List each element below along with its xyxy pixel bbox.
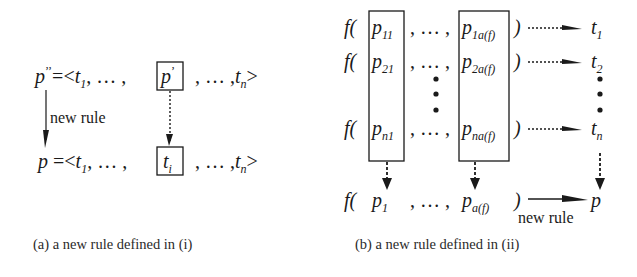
down-arrows (382, 153, 605, 190)
row2-first-param: p21 (372, 51, 394, 71)
result-close: ) (514, 190, 521, 210)
p-symbol: p (462, 117, 472, 139)
p-symbol: p (35, 65, 45, 87)
panel-a-bottom-expression: p =<t1, … , (38, 151, 127, 171)
p-symbol: p (462, 50, 472, 72)
rown-last-param: pna(f) (462, 118, 495, 138)
new-rule-label-a: new rule (50, 110, 106, 126)
ellipsis: , … , (87, 150, 127, 172)
result-last-param: pa(f) (462, 190, 489, 210)
panel-a-top-expression: p’’=<t1, … , (35, 66, 126, 86)
panel-a-bottom-tail: , … ,tn> (195, 151, 258, 171)
func-f-rown: f( (344, 118, 356, 138)
boxed-p-prime-text: p’ (161, 66, 175, 86)
prime: ’ (171, 64, 175, 78)
row2-ellipsis: , … , (410, 51, 450, 71)
t-symbol: t (591, 16, 597, 38)
row-arrows (528, 25, 582, 131)
row1-last-param: p1a(f) (462, 17, 495, 37)
new-rule-arrow-b (528, 195, 588, 202)
i-subscript: i (169, 162, 172, 176)
subscript: 21 (382, 62, 394, 76)
equals-open: =< (52, 65, 75, 87)
p-symbol: p (462, 189, 472, 211)
result-ellipsis: , … , (410, 190, 450, 210)
t-symbol: t (235, 65, 241, 87)
ellipsis: , … , (195, 65, 235, 87)
equals-open: =< (53, 150, 76, 172)
subscript: na(f) (472, 129, 495, 143)
ellipsis: , … , (86, 65, 126, 87)
row1-close: ) (514, 17, 521, 37)
p-symbol: p (372, 189, 382, 211)
subscript: 1a(f) (472, 28, 495, 42)
panel-a-top-tail: , … ,tn> (195, 66, 258, 86)
func-f-row1: f( (344, 17, 356, 37)
p-symbol: p (372, 50, 382, 72)
t-symbol: t (591, 117, 597, 139)
tn-subscript: n (241, 162, 247, 176)
new-rule-label-b: new rule (518, 210, 574, 226)
rown-close: ) (514, 118, 521, 138)
row2-last-param: p2a(f) (462, 51, 495, 71)
row1-target: t1 (591, 17, 603, 37)
rown-ellipsis: , … , (410, 118, 450, 138)
rown-target: tn (591, 118, 603, 138)
subscript: 2 (597, 62, 603, 76)
p-symbol: p (462, 16, 472, 38)
subscript: 1 (382, 201, 388, 215)
t-symbol: t (591, 50, 597, 72)
arrowhead-a-dotted (166, 134, 173, 146)
subscript: a(f) (472, 201, 489, 215)
result-first-param: p1 (372, 190, 388, 210)
func-f-result: f( (344, 190, 356, 210)
row1-first-param: p11 (372, 17, 393, 37)
p-symbol: p (161, 65, 171, 87)
close-bracket: > (247, 65, 258, 87)
row2-close: ) (514, 51, 521, 71)
t1-subscript: 1 (81, 162, 87, 176)
row1-ellipsis: , … , (410, 17, 450, 37)
ellipsis: , … , (195, 150, 235, 172)
t-symbol: t (235, 150, 241, 172)
boxed-t-i-text: ti (163, 151, 172, 171)
subscript: 11 (382, 28, 393, 42)
subscript: 2a(f) (472, 62, 495, 76)
tn-subscript: n (241, 77, 247, 91)
arrowhead-a-rule (43, 130, 49, 148)
caption-b: (b) a new rule defined in (ii) (355, 237, 519, 252)
rown-first-param: pn1 (372, 118, 394, 138)
p-symbol: p (372, 16, 382, 38)
subscript: n1 (382, 129, 394, 143)
p-symbol: p (372, 117, 382, 139)
caption-a: (a) a new rule defined in (i) (33, 237, 192, 252)
close-bracket: > (247, 150, 258, 172)
t-symbol: t (163, 150, 169, 172)
p-symbol: p (38, 150, 48, 172)
subscript: 1 (597, 28, 603, 42)
func-f-row2: f( (344, 51, 356, 71)
t1-subscript: 1 (80, 77, 86, 91)
row2-target: t2 (591, 51, 603, 71)
subscript: n (597, 129, 603, 143)
double-prime: ’’ (45, 64, 52, 78)
result-target-p: p (591, 190, 601, 210)
